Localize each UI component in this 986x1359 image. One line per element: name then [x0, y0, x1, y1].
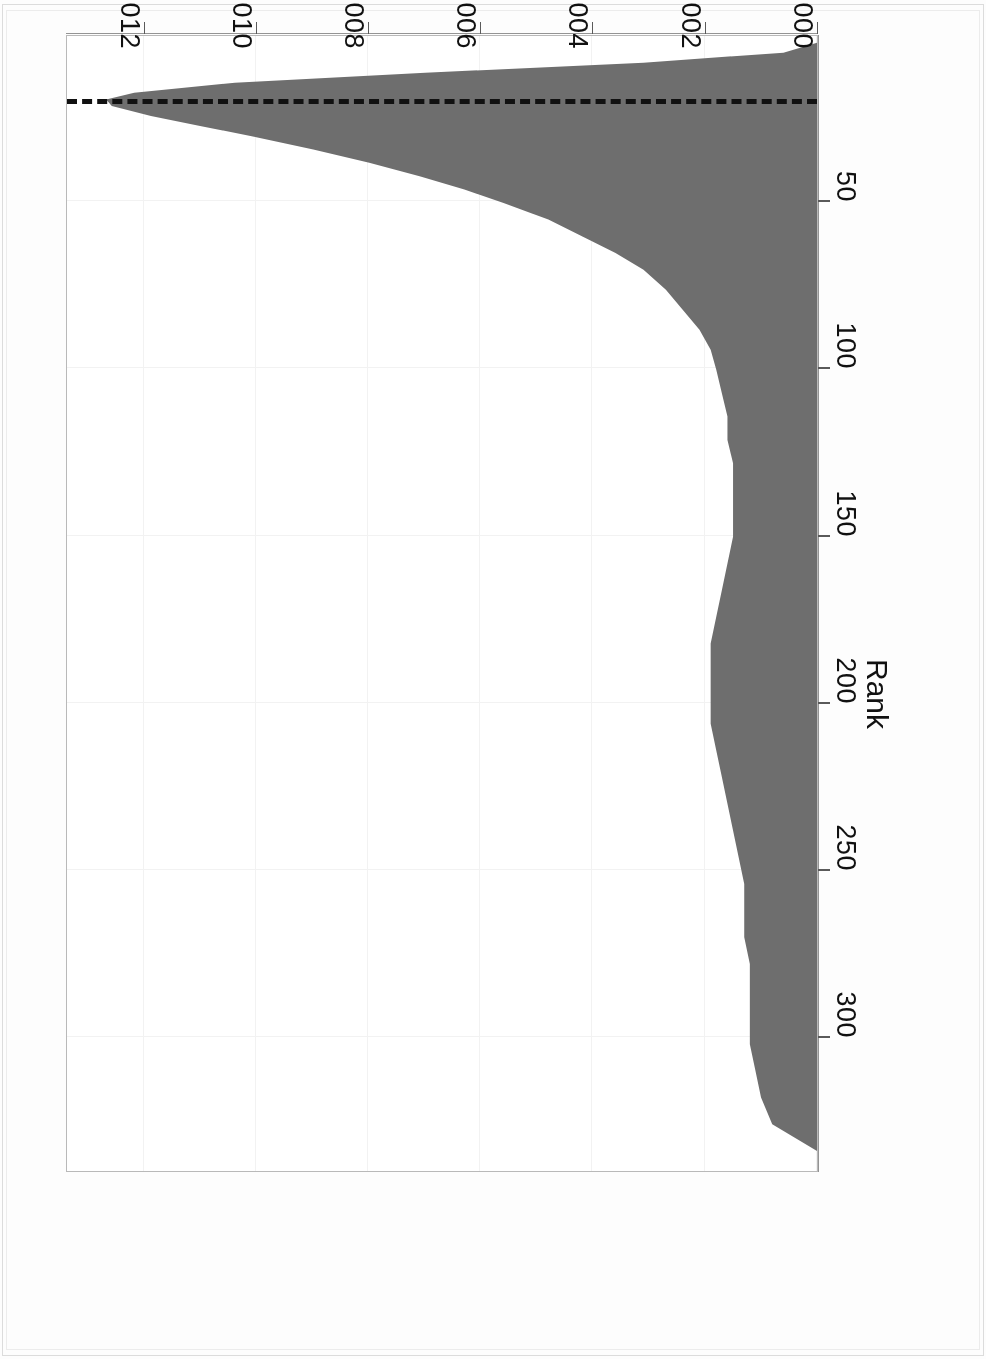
density-tick-label: 0.002 [675, 0, 706, 49]
rank-tick [818, 1036, 830, 1038]
rank-tick-label: 50 [831, 171, 862, 202]
density-tick-label: 0.004 [563, 0, 594, 49]
density-tick-label: 0.010 [226, 0, 257, 49]
rank-tick [818, 869, 830, 871]
reference-line-dashed [67, 99, 817, 104]
rank-tick-label: 150 [831, 490, 862, 537]
rank-tick-label: 250 [831, 824, 862, 871]
density-plot-figure: 0.0000.0020.0040.0060.0080.0100.012 dens… [0, 0, 986, 1359]
rank-tick-label: 200 [831, 657, 862, 704]
density-tick-label: 0.006 [450, 0, 481, 49]
rank-tick [818, 367, 830, 369]
rank-axis-title: Rank [860, 659, 894, 729]
plot-panel [66, 35, 818, 1172]
density-area [67, 36, 817, 1171]
density-tick-label: 0.012 [114, 0, 145, 49]
density-tick-label: 0.008 [338, 0, 369, 49]
density-tick-label: 0.000 [787, 0, 818, 49]
rank-axis-line [818, 35, 819, 1172]
rank-tick-label: 100 [831, 323, 862, 370]
density-polygon [67, 36, 817, 1171]
figure-page: 0.0000.0020.0040.0060.0080.0100.012 dens… [0, 0, 986, 1359]
rank-tick-label: 300 [831, 992, 862, 1039]
rank-tick [818, 702, 830, 704]
rank-tick [818, 200, 830, 202]
rank-tick [818, 535, 830, 537]
